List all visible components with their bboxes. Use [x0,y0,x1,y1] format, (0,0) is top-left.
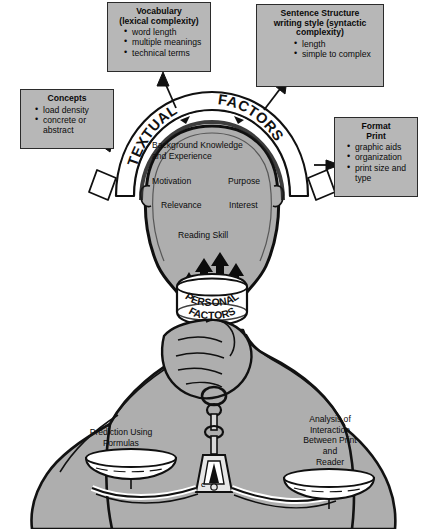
head-label-relevance: Relevance [161,200,202,211]
scale-fulcrum-mark: C [201,482,205,490]
list-item: print size and type [348,163,414,183]
list-item: simple to complex [295,49,379,59]
scale-label-left-pan: Prediction Using Formulas [66,427,176,448]
list-item: word length [125,27,207,37]
list-item: multiple meanings [125,37,207,47]
hand-holding-scale [162,320,251,399]
head-label-background-knowledge: Background Knowledge and Experience [152,140,243,161]
list-item: technical terms [125,48,207,58]
list-item: organization [348,152,414,162]
scale-label-right-pan: Analysis of Interaction Between Print an… [282,414,378,468]
head-label-motivation: Motivation [152,176,191,187]
box-list-sentence-structure: length simple to complex [261,39,379,59]
head-label-purpose: Purpose [228,176,260,187]
callout-box-concepts: Concepts load density concrete or abstra… [20,89,114,149]
box-list-concepts: load density concrete or abstract [24,105,110,135]
box-list-vocabulary: word length multiple meanings technical … [111,27,207,57]
callout-box-vocabulary: Vocabulary (lexical complexity) word len… [107,2,211,72]
box-list-format-print: graphic aids organization print size and… [338,142,414,183]
list-item: load density [36,105,110,115]
callout-box-sentence-structure: Sentence Structure writing style (syntac… [256,4,384,87]
box-title-concepts: Concepts [24,94,110,104]
list-item: length [295,39,379,49]
diagram-canvas: TEXTUAL FACTORS PERSONAL FACTORS Vocabul… [0,0,424,529]
head-label-interest: Interest [229,200,258,211]
head-label-reading-skill: Reading Skill [178,230,228,241]
callout-box-format-print: Format Print graphic aids organization p… [334,117,418,197]
box-title-format-print: Format Print [338,122,414,141]
list-item: graphic aids [348,142,414,152]
box-title-sentence-structure: Sentence Structure writing style (syntac… [261,9,379,38]
list-item: concrete or abstract [36,115,110,135]
box-title-vocabulary: Vocabulary (lexical complexity) [111,7,207,26]
